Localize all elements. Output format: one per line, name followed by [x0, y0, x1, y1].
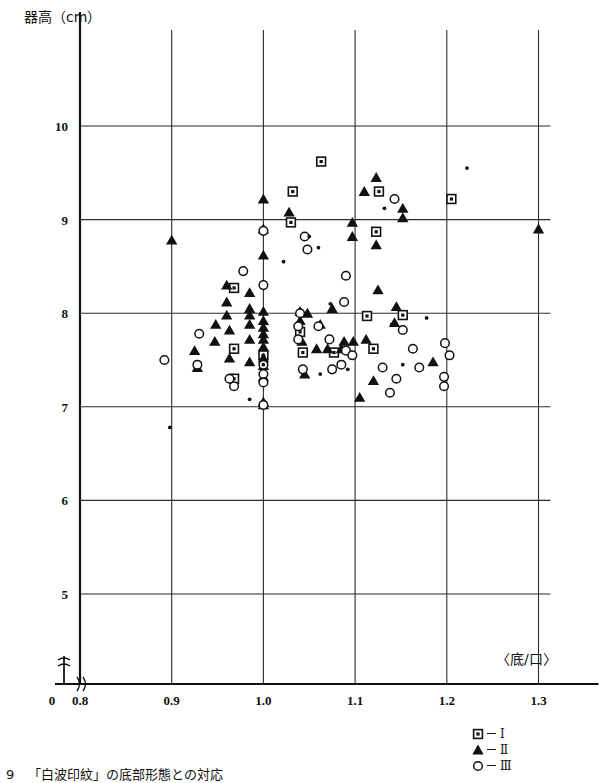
data-point-open-circle: [303, 245, 312, 254]
data-point-filled-triangle: [244, 356, 255, 366]
data-point-open-circle: [259, 281, 268, 290]
data-point-filled-triangle: [244, 287, 255, 297]
data-point-filled-triangle: [221, 310, 232, 320]
data-point-open-circle: [340, 298, 349, 307]
data-point-square-dot: [288, 187, 297, 196]
data-point-small-dot: [465, 166, 469, 170]
data-point-filled-triangle: [244, 319, 255, 329]
data-point-filled-triangle: [533, 224, 544, 234]
data-point-filled-triangle: [338, 336, 349, 346]
open-circle-icon: [470, 759, 486, 773]
data-point-open-circle: [441, 339, 450, 348]
figure-caption: 9「白波印紋」の底部形態との対応: [6, 764, 223, 783]
data-point-filled-triangle: [427, 356, 438, 366]
data-point-open-circle: [193, 360, 202, 369]
data-point-open-circle: [378, 363, 387, 372]
data-point-small-dot: [262, 363, 266, 367]
data-point-square-dot: [375, 187, 384, 196]
data-point-filled-triangle: [360, 334, 371, 344]
data-point-open-circle: [195, 329, 204, 338]
gridlines: [80, 30, 551, 684]
tick-labels: 56789100.80.91.01.11.21.30: [49, 119, 547, 708]
data-point-square-dot: [298, 348, 307, 357]
data-point-small-dot: [317, 246, 321, 250]
square-dot-glyph: [474, 730, 483, 739]
y-tick-label: 6: [62, 493, 69, 508]
legend-dash: [487, 733, 496, 734]
open-circle-glyph: [474, 762, 483, 771]
data-point-filled-triangle: [283, 207, 294, 217]
data-point-small-dot: [168, 425, 172, 429]
data-point-filled-triangle: [371, 172, 382, 182]
data-point-open-circle: [386, 388, 395, 397]
data-point-open-circle: [160, 356, 169, 365]
filled-triangle-icon: [470, 743, 486, 757]
data-point-open-circle: [409, 344, 418, 353]
y-axis-title: 器高（cm）: [24, 6, 101, 26]
data-point-filled-triangle: [221, 297, 232, 307]
data-point-filled-triangle: [348, 336, 359, 346]
data-point-open-circle: [348, 351, 357, 360]
data-point-open-circle: [239, 267, 248, 276]
legend-item-Ⅰ: Ⅰ: [470, 726, 512, 742]
data-point-square-dot: [369, 344, 378, 353]
data-point-square-dot: [447, 195, 456, 204]
data-point-open-circle: [294, 322, 303, 331]
data-point-small-dot: [282, 260, 286, 264]
data-point-open-circle: [259, 370, 268, 379]
y-tick-label: 8: [62, 306, 69, 321]
data-point-open-circle: [398, 326, 407, 335]
data-point-filled-triangle: [347, 231, 358, 241]
data-point-filled-triangle: [327, 303, 338, 313]
data-point-open-circle: [415, 363, 424, 372]
data-point-square-dot: [230, 344, 239, 353]
data-point-open-circle: [296, 309, 305, 318]
origin-label: 0: [49, 693, 56, 708]
legend-label: Ⅲ: [500, 758, 512, 774]
data-point-open-circle: [225, 374, 234, 383]
x-tick-label: 1.1: [347, 693, 363, 708]
caption-number: 9: [6, 767, 14, 782]
data-point-open-circle: [328, 365, 337, 374]
x-tick-label: 1.0: [255, 693, 271, 708]
data-point-small-dot: [262, 353, 266, 357]
x-tick-label: 1.2: [439, 693, 455, 708]
data-point-square-dot: [287, 218, 296, 227]
x-axis-title: 〈底/口〉: [496, 648, 557, 668]
data-point-open-circle: [294, 335, 303, 344]
data-point-filled-triangle: [258, 306, 269, 316]
data-point-filled-triangle: [372, 284, 383, 294]
data-point-filled-triangle: [224, 325, 235, 335]
y-tick-label: 7: [62, 400, 69, 415]
data-point-filled-triangle: [258, 250, 269, 260]
data-point-small-dot: [328, 302, 332, 306]
y-tick-label: 9: [62, 213, 69, 228]
data-point-filled-triangle: [397, 203, 408, 213]
data-point-open-circle: [325, 335, 334, 344]
data-point-square-dot: [363, 312, 372, 321]
x-tick-label: 1.3: [530, 693, 547, 708]
data-point-small-dot: [346, 367, 350, 371]
data-point-open-circle: [392, 374, 401, 383]
legend-label: Ⅱ: [500, 742, 508, 758]
data-point-small-dot: [401, 363, 405, 367]
data-point-open-circle: [342, 271, 351, 280]
caption-text: 「白波印紋」の底部形態との対応: [28, 767, 223, 782]
data-point-filled-triangle: [347, 217, 358, 227]
data-point-open-circle: [259, 227, 268, 236]
data-point-small-dot: [307, 235, 311, 239]
data-point-square-dot: [398, 311, 407, 320]
legend-label: Ⅰ: [500, 726, 505, 742]
data-point-small-dot: [248, 397, 252, 401]
square-dot-icon: [470, 727, 486, 741]
data-point-open-circle: [445, 351, 454, 360]
legend-item-Ⅲ: Ⅲ: [470, 758, 512, 774]
legend: ⅠⅡⅢ: [470, 726, 512, 774]
data-point-open-circle: [259, 378, 268, 387]
data-point-open-circle: [299, 365, 308, 374]
data-point-filled-triangle: [397, 212, 408, 222]
series-small-dot: [168, 166, 469, 429]
x-tick-label: 0.8: [72, 693, 89, 708]
x-tick-label: 0.9: [164, 693, 181, 708]
